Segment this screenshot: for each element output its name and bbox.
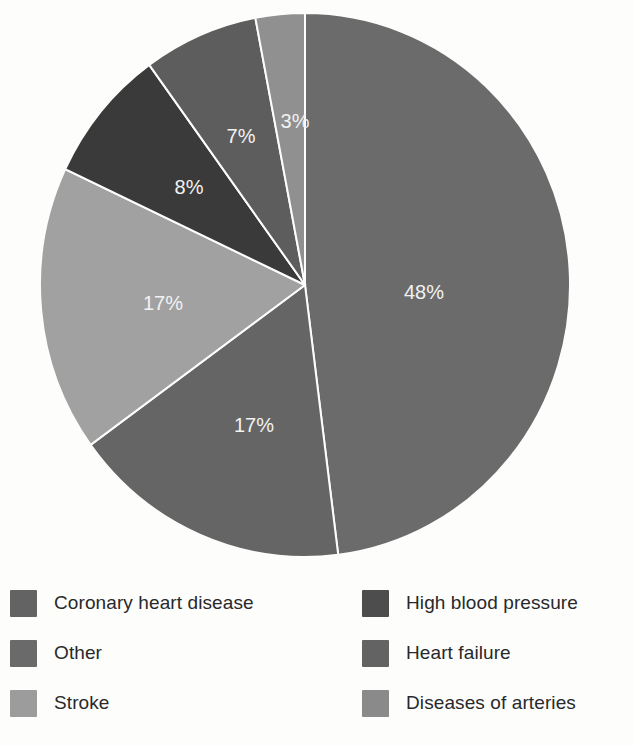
legend-column-left: Coronary heart disease Other Stroke [10,578,310,728]
legend-item-label: High blood pressure [406,592,578,614]
legend-item-coronary-heart-disease[interactable]: Coronary heart disease [10,578,310,628]
pie-data-label: 48% [404,281,444,303]
legend-item-label: Heart failure [406,642,511,664]
legend-item-heart-failure[interactable]: Heart failure [362,628,633,678]
chart-area: 48%17%17%8%7%3% [0,0,633,572]
chart-legend: Coronary heart disease Other Stroke High… [0,578,633,743]
pie-data-label: 8% [175,176,204,198]
legend-item-label: Stroke [54,692,110,714]
pie-data-label: 17% [234,414,274,436]
legend-swatch-icon [10,690,37,717]
legend-swatch-icon [362,640,389,667]
legend-swatch-icon [362,590,389,617]
legend-column-right: High blood pressure Heart failure Diseas… [362,578,633,728]
pie-chart: 48%17%17%8%7%3% [40,12,572,560]
pie-data-label: 7% [227,125,256,147]
pie-chart-page: 48%17%17%8%7%3% Coronary heart disease O… [0,0,633,746]
pie-data-label: 3% [281,110,310,132]
legend-item-label: Other [54,642,102,664]
legend-item-stroke[interactable]: Stroke [10,678,310,728]
legend-item-other[interactable]: Other [10,628,310,678]
legend-item-diseases-of-arteries[interactable]: Diseases of arteries [362,678,633,728]
pie-data-label: 17% [143,292,183,314]
legend-swatch-icon [10,590,37,617]
legend-item-high-blood-pressure[interactable]: High blood pressure [362,578,633,628]
legend-item-label: Diseases of arteries [406,692,576,714]
legend-swatch-icon [362,690,389,717]
legend-swatch-icon [10,640,37,667]
pie-slice-group [40,13,570,557]
legend-item-label: Coronary heart disease [54,592,254,614]
